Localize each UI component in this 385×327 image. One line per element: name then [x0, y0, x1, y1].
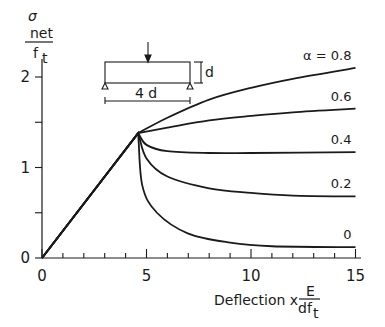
- curve-label: 0.6: [331, 89, 352, 104]
- beam-rect: [105, 62, 190, 83]
- x-tick-label: 0: [37, 267, 47, 285]
- curve-label: α = 0.8: [303, 48, 351, 63]
- span-label: 4 d: [135, 85, 157, 101]
- curve-label: 0.2: [331, 176, 352, 191]
- y-label-sub: net: [30, 25, 53, 41]
- support-left-icon: [102, 83, 108, 89]
- x-tick-label: 10: [241, 267, 260, 285]
- curve-label: 0.4: [331, 132, 352, 147]
- x-label-den: df: [298, 300, 313, 316]
- x-tick-label: 15: [346, 267, 365, 285]
- y-tick-label: 0: [20, 249, 30, 267]
- curves: [42, 68, 356, 258]
- x-tick-label: 5: [142, 267, 152, 285]
- y-ticks: 012: [20, 68, 42, 267]
- x-label-den-sub: t: [313, 305, 319, 321]
- chart: σ net f t 012 051015 d 4 d α = 0.80.60.4…: [0, 0, 385, 327]
- y-tick-label: 1: [20, 159, 30, 177]
- curve-label: 0: [343, 227, 351, 242]
- y-label-den-sub: t: [42, 50, 48, 66]
- y-axis-label: σ net f t: [25, 8, 53, 66]
- support-right-icon: [187, 83, 193, 89]
- y-label-den: f: [33, 45, 39, 61]
- load-arrow-icon: [145, 55, 151, 62]
- y-label-sigma: σ: [28, 8, 38, 24]
- x-label-prefix: Deflection x: [214, 292, 298, 308]
- y-tick-label: 2: [20, 68, 30, 86]
- curve-alpha-0.8: [42, 68, 356, 258]
- curve-labels: α = 0.80.60.40.20: [303, 48, 351, 242]
- depth-label: d: [205, 64, 214, 80]
- curve-alpha-0.6: [42, 109, 356, 258]
- x-label-num: E: [306, 283, 315, 299]
- x-axis-label: Deflection x E df t: [214, 283, 320, 321]
- x-ticks: 051015: [37, 249, 365, 285]
